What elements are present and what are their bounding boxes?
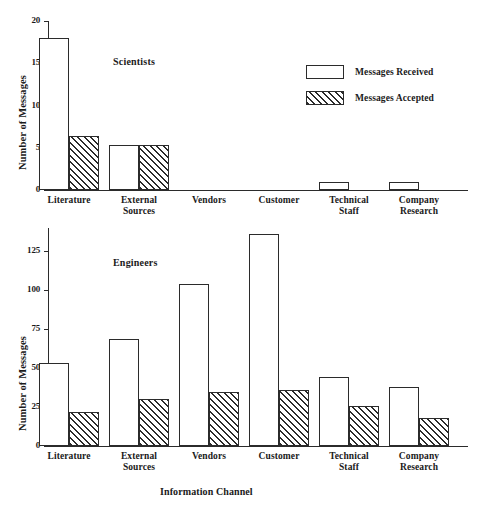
engineers-y-tick-label: 75 — [12, 323, 40, 333]
engineers-y-tick — [44, 290, 48, 291]
engineers-bar-accepted — [209, 392, 239, 447]
scientists-x-tick-label: Company Research — [379, 195, 459, 217]
engineers-x-axis — [48, 446, 468, 447]
legend-swatch-open — [306, 65, 344, 79]
engineers-y-tick-label: 100 — [12, 284, 40, 294]
scientists-x-tick-label: Literature — [29, 195, 109, 206]
chart-scientists-y-axis-title: Number of Messages — [17, 75, 28, 170]
engineers-bar-accepted — [69, 412, 99, 446]
scientists-y-tick — [44, 21, 48, 22]
engineers-x-tick-label: Vendors — [169, 451, 249, 462]
engineers-y-tick — [44, 329, 48, 330]
scientists-y-tick-label: 10 — [12, 100, 40, 110]
chart-engineers: Number of Messages Engineers Information… — [0, 215, 486, 505]
figure-root: Number of Messages Scientists 05101520Li… — [0, 0, 486, 505]
engineers-bar-received — [39, 363, 69, 446]
chart-engineers-x-axis-title: Information Channel — [160, 486, 253, 497]
scientists-y-tick-label: 15 — [12, 57, 40, 67]
scientists-x-tick-label: Vendors — [169, 195, 249, 206]
engineers-x-tick-label: Company Research — [379, 451, 459, 473]
chart-engineers-y-axis-title: Number of Messages — [17, 336, 28, 431]
engineers-y-tick-label: 25 — [12, 401, 40, 411]
scientists-y-tick-label: 0 — [12, 184, 40, 194]
engineers-bar-accepted — [349, 406, 379, 446]
chart-engineers-plot-area: 0255075100125LiteratureExternal SourcesV… — [48, 228, 468, 446]
scientists-bar-received — [109, 145, 139, 190]
scientists-y-tick-label: 20 — [12, 15, 40, 25]
engineers-bar-accepted — [139, 399, 169, 446]
engineers-bar-received — [389, 387, 419, 446]
engineers-y-tick-label: 125 — [12, 245, 40, 255]
engineers-x-tick-label: Customer — [239, 451, 319, 462]
legend-label-messages-accepted: Messages Accepted — [355, 93, 434, 103]
engineers-y-tick-label: 50 — [12, 362, 40, 372]
engineers-y-tick — [44, 251, 48, 252]
legend-label-messages-received: Messages Received — [355, 67, 433, 77]
scientists-y-tick-label: 5 — [12, 142, 40, 152]
engineers-y-tick-label: 0 — [12, 440, 40, 450]
legend: Messages Received Messages Accepted — [306, 65, 481, 110]
engineers-bar-received — [319, 377, 349, 446]
legend-swatch-hatched — [306, 91, 344, 105]
scientists-x-axis — [48, 190, 468, 191]
chart-scientists: Number of Messages Scientists 05101520Li… — [0, 0, 486, 215]
scientists-bar-accepted — [139, 145, 169, 190]
scientists-x-tick-label: External Sources — [99, 195, 179, 217]
scientists-bar-received — [39, 38, 69, 190]
scientists-bar-received — [319, 182, 349, 190]
engineers-x-tick-label: External Sources — [99, 451, 179, 473]
legend-item-messages-accepted: Messages Accepted — [306, 91, 434, 105]
engineers-bar-received — [109, 339, 139, 446]
engineers-x-tick-label: Technical Staff — [309, 451, 389, 473]
scientists-x-tick-label: Technical Staff — [309, 195, 389, 217]
scientists-bar-received — [389, 182, 419, 190]
engineers-bar-received — [249, 234, 279, 446]
scientists-x-tick-label: Customer — [239, 195, 319, 206]
legend-item-messages-received: Messages Received — [306, 65, 433, 79]
engineers-bar-accepted — [419, 418, 449, 446]
scientists-bar-accepted — [69, 136, 99, 190]
engineers-bar-accepted — [279, 390, 309, 446]
engineers-bar-received — [179, 284, 209, 446]
engineers-x-tick-label: Literature — [29, 451, 109, 462]
